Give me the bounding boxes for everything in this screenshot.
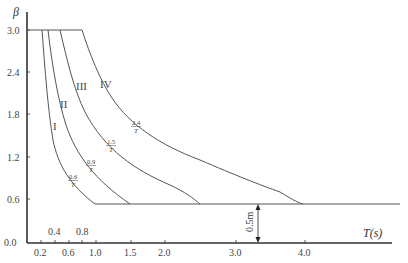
x-tick-3.0: 3.0 bbox=[229, 247, 242, 258]
x-tick-labels-upper: 0.4 0.8 bbox=[48, 226, 89, 237]
response-spectrum-chart: β 3.0 2.4 1.8 1.2 0.6 0.0 0.2 0.6 1.0 1.… bbox=[0, 0, 408, 263]
curve-IV bbox=[82, 30, 303, 204]
x-tick-0.6: 0.6 bbox=[62, 247, 75, 258]
y-tick-1.8: 1.8 bbox=[7, 109, 20, 120]
curve-label-IV: IV bbox=[100, 78, 112, 90]
x-tick-4.0: 4.0 bbox=[298, 247, 311, 258]
y-tick-0.6: 0.6 bbox=[7, 194, 20, 205]
x-tick-1.0: 1.0 bbox=[89, 247, 102, 258]
curve-label-III: III bbox=[76, 80, 87, 92]
dimension-label: 0.5m bbox=[244, 212, 255, 233]
curve-label-I: I bbox=[53, 120, 57, 132]
svg-text:0.6: 0.6 bbox=[69, 173, 78, 180]
svg-text:0.9: 0.9 bbox=[87, 158, 95, 165]
x-tick-0.8: 0.8 bbox=[76, 226, 89, 237]
x-tick-0.4: 0.4 bbox=[48, 226, 61, 237]
curve-III bbox=[60, 30, 200, 204]
curve-II bbox=[48, 30, 130, 204]
dimension-arrow bbox=[256, 204, 261, 243]
x-tick-1.5: 1.5 bbox=[124, 247, 137, 258]
formula-III: 1.5 T bbox=[106, 138, 116, 154]
x-tick-2.0: 2.0 bbox=[158, 247, 171, 258]
curve-label-II: II bbox=[60, 98, 68, 110]
y-tick-labels: 3.0 2.4 1.8 1.2 0.6 0.0 bbox=[4, 25, 20, 248]
svg-text:T: T bbox=[71, 181, 76, 189]
svg-text:2.4: 2.4 bbox=[132, 119, 141, 126]
x-tick-labels-lower: 0.2 0.6 1.0 1.5 2.0 3.0 4.0 bbox=[34, 247, 311, 258]
y-tick-3.0: 3.0 bbox=[7, 25, 20, 36]
y-tick-0.0: 0.0 bbox=[4, 237, 17, 248]
y-axis-title: β bbox=[12, 5, 19, 19]
svg-text:T: T bbox=[134, 127, 139, 135]
y-tick-2.4: 2.4 bbox=[7, 67, 20, 78]
x-axis-title: T(s) bbox=[363, 226, 382, 240]
x-tick-0.2: 0.2 bbox=[34, 247, 47, 258]
y-tick-1.2: 1.2 bbox=[7, 152, 20, 163]
svg-text:1.5: 1.5 bbox=[107, 138, 115, 145]
